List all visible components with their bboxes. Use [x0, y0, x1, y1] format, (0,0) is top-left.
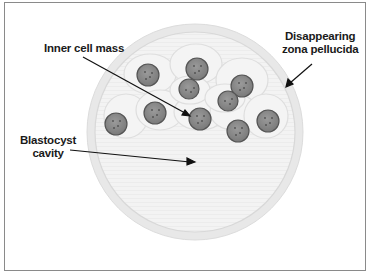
- nucleus: [227, 120, 249, 142]
- label-inner-cell-mass: Inner cell mass: [44, 42, 124, 55]
- nucleus: [105, 113, 127, 135]
- zona-pointer: [290, 64, 312, 83]
- label-blastocyst-cavity: Blastocyst cavity: [20, 134, 76, 160]
- nucleus: [186, 58, 208, 80]
- nucleus: [257, 110, 279, 132]
- nucleus: [179, 79, 199, 99]
- nucleus: [144, 102, 166, 124]
- label-zona-pellucida: Disappearing zona pellucida: [282, 30, 358, 56]
- nucleus: [137, 64, 159, 86]
- nucleus: [189, 108, 211, 130]
- label-cavity-line2: cavity: [20, 147, 76, 160]
- nucleus: [218, 91, 238, 111]
- label-cavity-line1: Blastocyst: [20, 134, 76, 147]
- label-zona-line2: zona pellucida: [282, 43, 358, 56]
- label-zona-line1: Disappearing: [282, 30, 358, 43]
